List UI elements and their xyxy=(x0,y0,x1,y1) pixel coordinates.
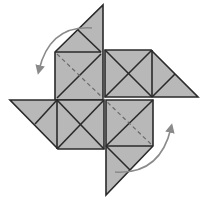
left-arm xyxy=(10,100,104,149)
bottom-arm xyxy=(106,100,153,195)
pinwheel-diagram xyxy=(0,0,208,202)
right-arm xyxy=(105,50,198,97)
top-arm xyxy=(55,5,103,100)
